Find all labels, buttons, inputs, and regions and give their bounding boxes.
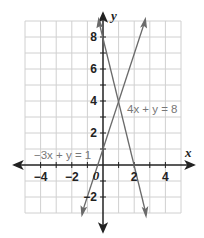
x-axis-label: x: [184, 145, 192, 160]
x-tick-label-4: 4: [162, 170, 169, 184]
y-axis-down-arrow-icon: [100, 224, 107, 232]
y-tick-label-6: 6: [90, 62, 97, 76]
equation-label-neg3x-plus-y-eq-1: −3x + y = 1: [34, 149, 91, 161]
coordinate-plane: −4 −2 2 4 0 8 6 4 2 −2 y x 4x + y = 8 −3…: [0, 0, 204, 238]
x-axis-right-arrow-icon: [186, 162, 194, 169]
x-tick-label-2: 2: [131, 170, 138, 184]
x-axis-left-arrow-icon: [14, 162, 22, 169]
x-tick-label-neg4: −4: [34, 170, 48, 184]
line2-down-arrow-icon: [81, 207, 86, 215]
line1-down-arrow-icon: [143, 208, 147, 216]
y-tick-label-neg2: −2: [83, 190, 97, 204]
y-tick-label-8: 8: [90, 30, 97, 44]
x-tick-label-neg2: −2: [65, 170, 79, 184]
y-tick-label-2: 2: [90, 126, 97, 140]
y-axis-label: y: [109, 8, 117, 23]
origin-label: 0: [93, 168, 100, 183]
y-axis-up-arrow-icon: [100, 13, 107, 21]
equation-label-4x-plus-y-eq-8: 4x + y = 8: [127, 103, 178, 115]
line2-up-arrow-icon: [142, 19, 147, 27]
x-axis: [14, 162, 194, 169]
y-tick-label-4: 4: [90, 94, 97, 108]
